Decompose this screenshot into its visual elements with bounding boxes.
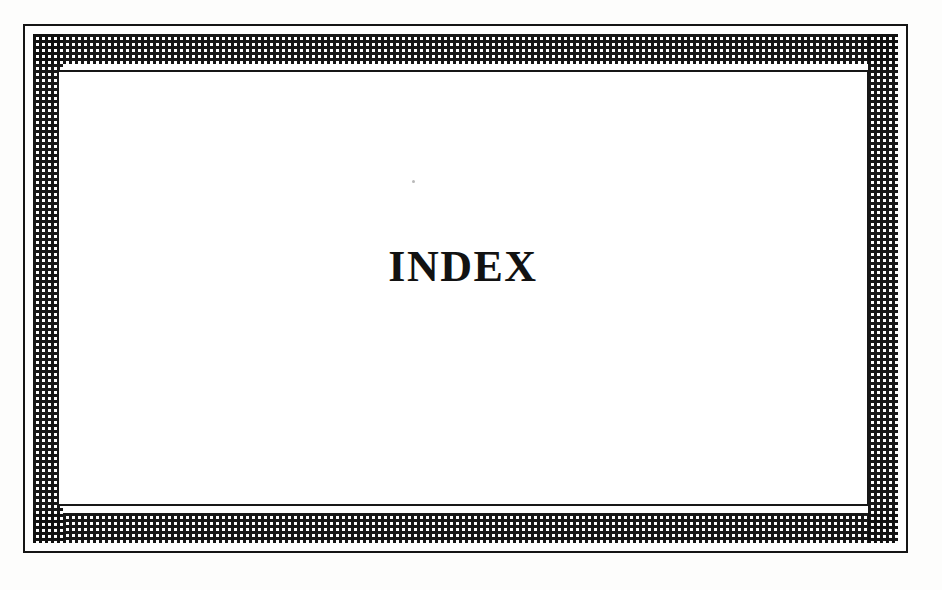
scanned-page-canvas: INDEX (0, 0, 942, 590)
scan-speck-artifact (412, 180, 415, 183)
ornament-band-bottom (33, 513, 898, 543)
ornament-band-right (868, 34, 898, 543)
page-title: INDEX (59, 245, 867, 289)
ornament-band-top (33, 34, 898, 64)
content-plate: INDEX (59, 72, 867, 504)
